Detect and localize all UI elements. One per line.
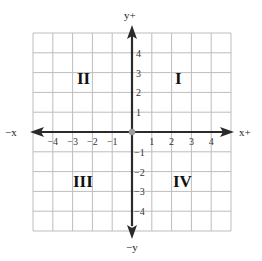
y-tick-label: 2 bbox=[136, 87, 141, 98]
x-positive-label: x+ bbox=[239, 126, 251, 138]
x-tick-labels: −4−3−2−11234 bbox=[47, 136, 213, 147]
x-tick-label: −3 bbox=[67, 136, 78, 147]
y-negative-label: −y bbox=[126, 241, 138, 253]
x-tick-label: −2 bbox=[87, 136, 98, 147]
x-tick-label: 1 bbox=[149, 136, 154, 147]
y-tick-label: 1 bbox=[136, 107, 141, 118]
coordinate-plane: x+ −x y+ −y −4−3−2−11234 4321−1−2−3−4 I … bbox=[0, 0, 262, 261]
y-tick-label: −1 bbox=[134, 147, 145, 158]
y-tick-label: −3 bbox=[134, 186, 145, 197]
x-tick-label: −4 bbox=[47, 136, 58, 147]
y-positive-label: y+ bbox=[124, 9, 136, 21]
quadrant-III-label: III bbox=[73, 172, 93, 191]
x-tick-label: −1 bbox=[107, 136, 118, 147]
quadrant-IV-label: IV bbox=[173, 172, 193, 191]
y-tick-label: −4 bbox=[134, 206, 145, 217]
x-tick-label: 4 bbox=[209, 136, 214, 147]
y-tick-label: −2 bbox=[134, 167, 145, 178]
quadrant-I-label: I bbox=[175, 69, 182, 88]
x-tick-label: 2 bbox=[169, 136, 174, 147]
quadrant-II-label: II bbox=[77, 69, 91, 88]
x-tick-label: 3 bbox=[189, 136, 194, 147]
origin-point bbox=[129, 129, 135, 135]
y-tick-label: 4 bbox=[136, 48, 141, 59]
x-negative-label: −x bbox=[5, 126, 17, 138]
y-tick-label: 3 bbox=[136, 68, 141, 79]
